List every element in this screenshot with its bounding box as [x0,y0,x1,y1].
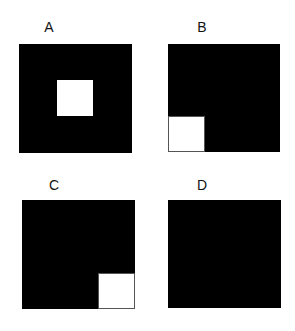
panel-c-white-square-bottom-right [98,273,135,309]
panel-b-label: B [192,19,212,35]
panel-d-square [168,200,281,308]
panel-c-label: C [44,177,64,193]
panel-a-label: A [39,19,59,35]
panel-b-square [168,44,280,152]
panel-a-square [19,44,132,153]
panel-c-square [22,200,135,309]
panel-d-label: D [192,177,212,193]
panel-b-white-square-bottom-left [168,116,205,152]
panel-a-white-square-center [57,80,93,116]
